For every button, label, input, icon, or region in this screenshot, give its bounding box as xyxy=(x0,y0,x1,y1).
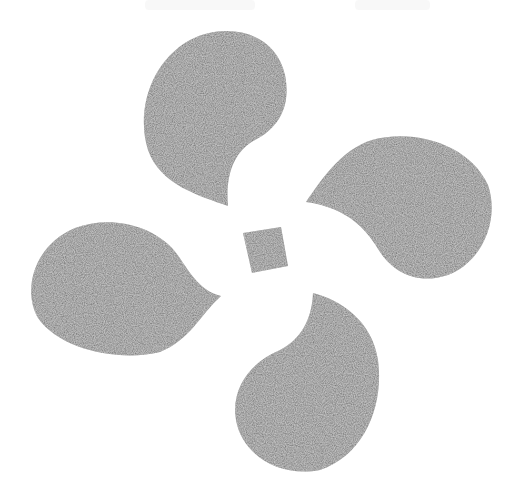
center-square xyxy=(243,227,288,273)
stamp-canvas xyxy=(0,0,519,501)
paisley-right xyxy=(306,136,492,278)
paisley-bottom xyxy=(235,293,379,472)
paisley-left xyxy=(31,222,221,355)
bleed-through-mark xyxy=(355,0,430,10)
paisley-top xyxy=(144,31,287,206)
bleed-through-mark xyxy=(145,0,255,10)
pinwheel-motif xyxy=(0,0,519,501)
